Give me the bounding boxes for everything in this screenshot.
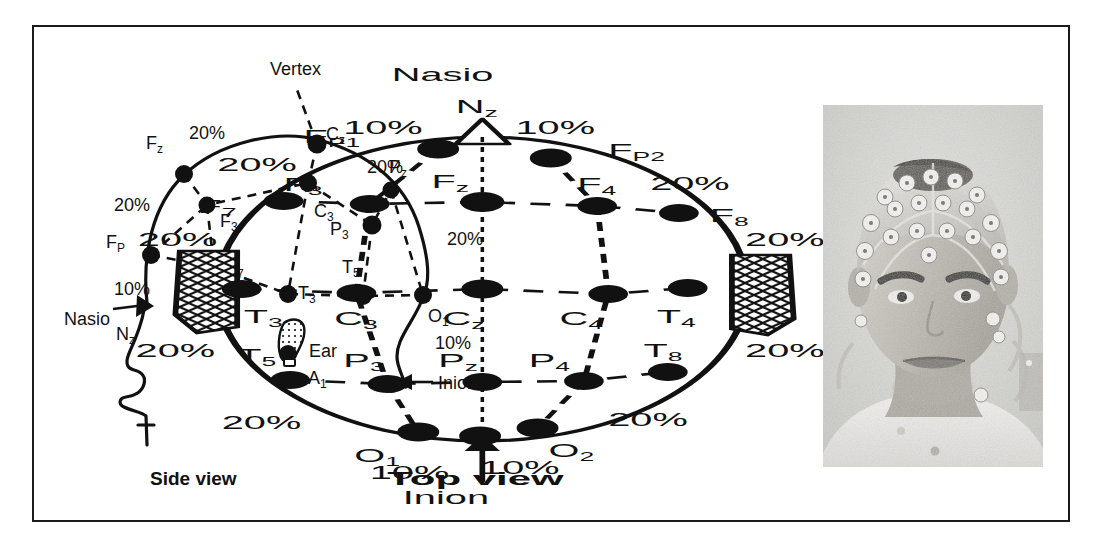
top-electrode-t4 <box>668 279 708 297</box>
top-electrode-fz <box>460 192 504 212</box>
figure-frame: Fz Cz Pz FP F3 C3 P3 F7 T3 T5 O1 Nz A1 V… <box>32 25 1070 522</box>
top-percent-mid-left: 20% <box>138 230 218 250</box>
figure-root: Fz Cz Pz FP F3 C3 P3 F7 T3 T5 O1 Nz A1 V… <box>0 0 1096 544</box>
top-label-f8: F8 <box>710 206 749 229</box>
top-label-cz: Cz <box>443 309 485 332</box>
top-label-f7: F7 <box>197 197 236 220</box>
top-electrode-fp2 <box>530 149 572 168</box>
top-electrode-f8 <box>659 204 699 222</box>
photo-canvas <box>823 105 1043 467</box>
top-electrode-o1 <box>397 423 439 442</box>
top-electrode-t3 <box>222 280 262 298</box>
top-electrode-oz <box>459 427 501 446</box>
top-percent-front-left: 20% <box>217 155 297 175</box>
top-electrode-f4 <box>577 197 617 215</box>
top-label-nz: Nz <box>456 97 498 120</box>
top-percent-nasion-right: 10% <box>515 118 595 138</box>
top-electrode-p4 <box>564 372 604 390</box>
top-label-fp2: FP2 <box>608 141 665 164</box>
top-electrode-c3 <box>337 284 377 302</box>
top-percent-low-right: 20% <box>745 341 825 361</box>
top-percent-back-left: 20% <box>222 413 302 433</box>
top-label-c3: C3 <box>334 309 377 332</box>
top-label-fz: Fz <box>432 172 470 195</box>
top-electrode-f3 <box>350 195 390 213</box>
top-percent-back-right: 20% <box>608 410 688 430</box>
top-annotation-nasio: Nasio <box>392 65 494 85</box>
top-label-p4: P4 <box>529 351 570 374</box>
top-electrode-t8 <box>648 363 688 381</box>
top-view-caption: Top view <box>387 468 564 489</box>
top-label-f4: F4 <box>577 175 616 198</box>
top-label-c4: C4 <box>560 309 603 332</box>
top-electrode-o2 <box>517 419 559 438</box>
top-label-pz: Pz <box>438 351 478 374</box>
top-electrode-t5 <box>270 371 310 389</box>
top-electrode-pz <box>462 373 502 391</box>
top-percent-low-left: 20% <box>136 341 216 361</box>
top-label-t3: T3 <box>244 307 283 330</box>
top-electrode-c4 <box>588 285 628 303</box>
top-percent-nasion-left: 10% <box>343 118 423 138</box>
top-right-ear <box>732 255 794 335</box>
top-label-t5: T5 <box>237 346 276 369</box>
top-percent-front-right: 20% <box>650 174 730 194</box>
top-electrode-cz <box>461 280 503 299</box>
top-label-t4: T4 <box>657 307 696 330</box>
top-electrode-fp1 <box>417 140 459 159</box>
top-label-f3: F3 <box>284 175 323 198</box>
top-percent-mid-right: 20% <box>745 230 825 250</box>
top-electrode-p3 <box>367 375 407 393</box>
top-annotation-inion: Inion <box>403 488 489 508</box>
eeg-subject-photo <box>823 105 1043 467</box>
top-label-t8: T8 <box>644 341 683 364</box>
